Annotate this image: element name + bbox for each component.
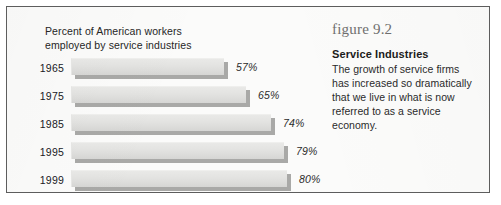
bar-row: 197565% bbox=[14, 83, 302, 111]
bar-row: 199579% bbox=[14, 139, 302, 167]
caption-body-text: The growth of service firms has increase… bbox=[332, 62, 474, 132]
bar-category-label: 1965 bbox=[28, 62, 64, 74]
figure-number-label: figure 9.2 bbox=[332, 21, 482, 38]
bar-face bbox=[71, 142, 284, 159]
bar-right-bevel bbox=[287, 174, 291, 191]
bar-right-bevel bbox=[224, 62, 228, 79]
bar-right-bevel bbox=[284, 146, 288, 163]
bar-category-label: 1995 bbox=[28, 146, 64, 158]
bar bbox=[71, 86, 250, 107]
figure-container: Percent of American workers employed by … bbox=[0, 0, 501, 205]
bar-category-label: 1985 bbox=[28, 118, 64, 130]
bar-right-bevel bbox=[271, 118, 275, 135]
bar-face bbox=[71, 114, 271, 131]
bar-category-label: 1999 bbox=[28, 174, 64, 186]
bar-bottom-bevel bbox=[75, 159, 288, 163]
bar-face bbox=[71, 170, 287, 187]
bar-category-label: 1975 bbox=[28, 90, 64, 102]
bar-face bbox=[71, 86, 246, 103]
bar-value-label: 79% bbox=[296, 145, 318, 157]
bar-value-label: 65% bbox=[258, 89, 280, 101]
bar bbox=[71, 142, 288, 163]
bar-chart-panel: Percent of American workers employed by … bbox=[14, 14, 302, 199]
bar-right-bevel bbox=[246, 90, 250, 107]
bar bbox=[71, 58, 228, 79]
caption-heading: Service Industries bbox=[332, 48, 482, 60]
bar-bottom-bevel bbox=[75, 103, 250, 107]
bar-bottom-bevel bbox=[75, 75, 228, 79]
bar bbox=[71, 114, 275, 135]
bar-row: 199980% bbox=[14, 167, 302, 195]
bar-value-label: 57% bbox=[236, 61, 258, 73]
plot-area: 196557%197565%198574%199579%199980% bbox=[14, 55, 302, 199]
bar-bottom-bevel bbox=[75, 187, 291, 191]
bar bbox=[71, 170, 291, 191]
bar-value-label: 74% bbox=[283, 117, 305, 129]
bar-value-label: 80% bbox=[299, 173, 321, 185]
bar-row: 198574% bbox=[14, 111, 302, 139]
chart-title: Percent of American workers employed by … bbox=[45, 25, 260, 52]
bar-face bbox=[71, 58, 224, 75]
caption-panel: figure 9.2 Service Industries The growth… bbox=[332, 21, 482, 132]
figure-frame: Percent of American workers employed by … bbox=[6, 6, 490, 193]
bar-row: 196557% bbox=[14, 55, 302, 83]
bar-bottom-bevel bbox=[75, 131, 275, 135]
